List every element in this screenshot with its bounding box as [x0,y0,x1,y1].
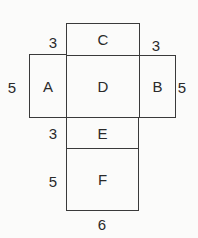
face-b-label: B [152,78,162,95]
dim-f-width: 6 [98,217,106,232]
face-d: D [66,55,140,118]
face-c-label: C [98,31,109,48]
face-f: F [66,148,139,211]
dim-c-height: 3 [49,35,57,50]
face-a-label: A [43,78,53,95]
dim-f-height: 5 [49,174,57,189]
dim-b-height: 5 [178,80,186,95]
face-c: C [66,23,140,56]
face-b: B [139,55,176,118]
face-e-label: E [97,125,107,142]
dim-b-top: 3 [152,38,160,53]
dim-e-height: 3 [49,126,57,141]
dim-a-height: 5 [8,80,16,95]
face-f-label: F [98,171,107,188]
face-a: A [29,54,67,118]
face-d-label: D [98,78,109,95]
face-e: E [66,117,139,149]
